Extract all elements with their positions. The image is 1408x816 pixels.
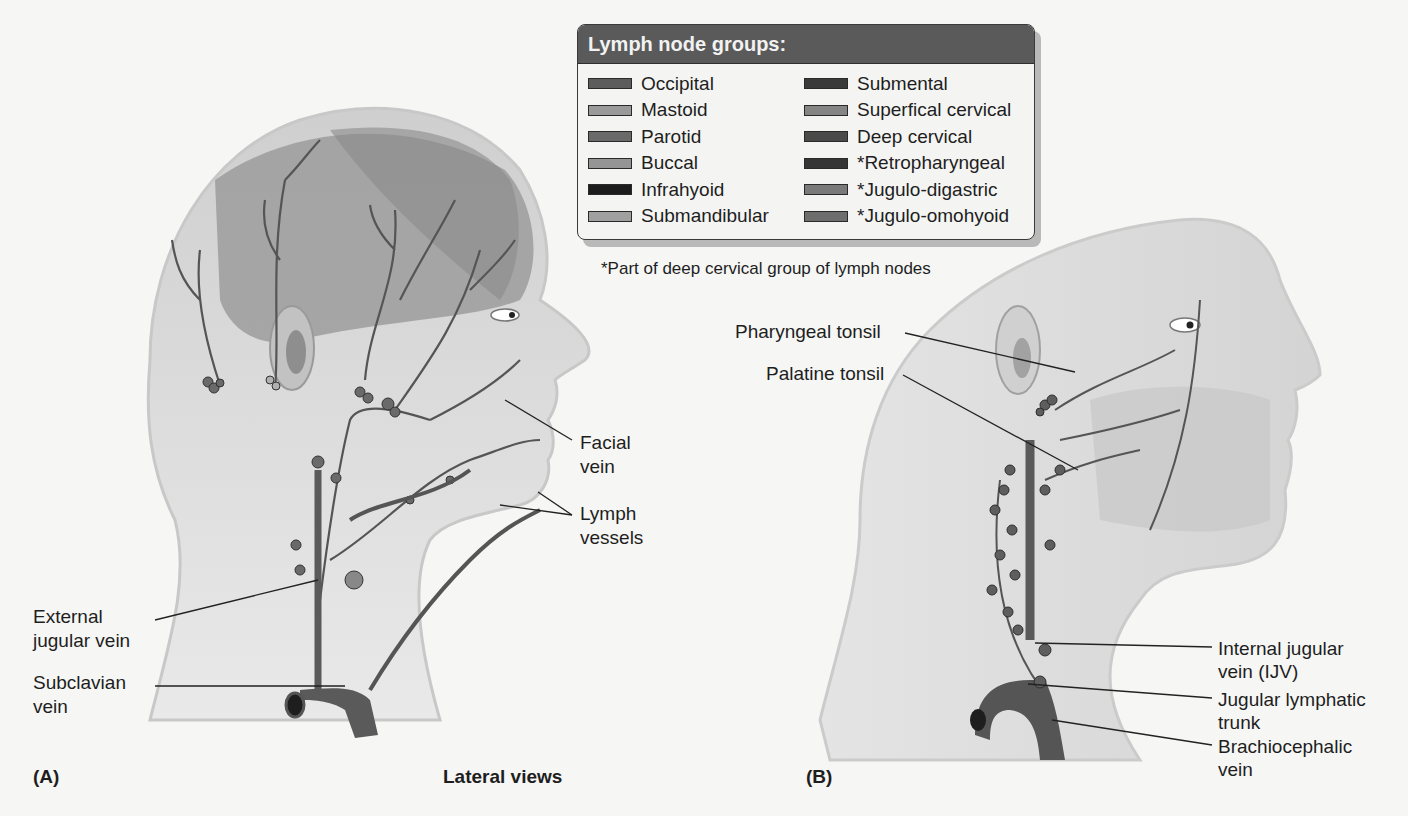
legend-item-jugulo-omohyoid: *Jugulo-omohyoid bbox=[804, 205, 1034, 229]
legend-grid: Occipital Submental Mastoid Superfical c… bbox=[578, 64, 1034, 228]
legend-title: Lymph node groups: bbox=[578, 25, 1034, 64]
panel-a-marker: (A) bbox=[33, 766, 59, 788]
label-ijv-line2: vein (IJV) bbox=[1218, 661, 1298, 683]
parotid-swatch-icon bbox=[588, 131, 632, 142]
label-external-jugular-line2: jugular vein bbox=[33, 630, 130, 652]
buccal-swatch-icon bbox=[588, 158, 632, 169]
legend-item-deep-cervical: Deep cervical bbox=[804, 125, 1034, 149]
label-lymph-vessels-line2: vessels bbox=[580, 527, 643, 549]
legend-item-parotid: Parotid bbox=[588, 125, 804, 149]
label-subclavian-line1: Subclavian bbox=[33, 672, 126, 694]
label-subclavian-line2: vein bbox=[33, 696, 68, 718]
label-brachiocephalic-line2: vein bbox=[1218, 759, 1253, 781]
occipital-swatch-icon bbox=[588, 78, 632, 89]
legend-item-retropharyngeal: *Retropharyngeal bbox=[804, 152, 1034, 176]
label-palatine-tonsil: Palatine tonsil bbox=[766, 363, 884, 385]
legend-item-superficial-cervical: Superfical cervical bbox=[804, 99, 1034, 123]
legend-item-jugulo-digastric: *Jugulo-digastric bbox=[804, 178, 1034, 202]
legend-item-mastoid: Mastoid bbox=[588, 99, 804, 123]
mastoid-swatch-icon bbox=[588, 105, 632, 116]
lymph-node-legend: Lymph node groups: Occipital Submental M… bbox=[577, 24, 1035, 240]
label-ijv-line1: Internal jugular bbox=[1218, 638, 1344, 660]
panel-a-head bbox=[148, 108, 589, 738]
deep-cervical-swatch-icon bbox=[804, 131, 848, 142]
figure-caption: Lateral views bbox=[443, 766, 562, 788]
infrahyoid-swatch-icon bbox=[588, 184, 632, 195]
legend-footnote: *Part of deep cervical group of lymph no… bbox=[601, 259, 931, 279]
label-pharyngeal-tonsil: Pharyngeal tonsil bbox=[735, 321, 881, 343]
submental-swatch-icon bbox=[804, 78, 848, 89]
label-jugular-trunk-line1: Jugular lymphatic bbox=[1218, 689, 1366, 711]
legend-item-buccal: Buccal bbox=[588, 152, 804, 176]
submandibular-swatch-icon bbox=[588, 211, 632, 222]
legend-item-infrahyoid: Infrahyoid bbox=[588, 178, 804, 202]
jugulo-omohyoid-swatch-icon bbox=[804, 211, 848, 222]
label-lymph-vessels-line1: Lymph bbox=[580, 503, 636, 525]
superficial-cervical-swatch-icon bbox=[804, 105, 848, 116]
retropharyngeal-swatch-icon bbox=[804, 158, 848, 169]
panel-b-marker: (B) bbox=[806, 766, 832, 788]
label-facial-vein-line2: vein bbox=[580, 456, 615, 478]
label-external-jugular-line1: External bbox=[33, 606, 103, 628]
legend-item-submental: Submental bbox=[804, 72, 1034, 96]
label-brachiocephalic-line1: Brachiocephalic bbox=[1218, 736, 1352, 758]
legend-item-submandibular: Submandibular bbox=[588, 205, 804, 229]
jugulo-digastric-swatch-icon bbox=[804, 184, 848, 195]
label-facial-vein-line1: Facial bbox=[580, 432, 631, 454]
label-jugular-trunk-line2: trunk bbox=[1218, 712, 1260, 734]
legend-item-occipital: Occipital bbox=[588, 72, 804, 96]
